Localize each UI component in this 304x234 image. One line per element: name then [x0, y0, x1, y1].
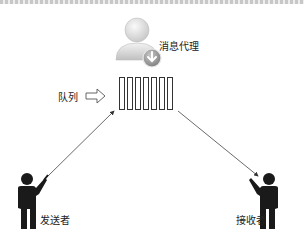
- diagram-canvas: [0, 0, 304, 234]
- broker-label: 消息代理: [159, 38, 199, 53]
- hollow-arrow-right-icon: [86, 89, 105, 103]
- edge-queue-to-receiver: [178, 111, 258, 176]
- sender-label: 发送者: [40, 212, 70, 227]
- edge-sender-to-queue: [46, 111, 114, 178]
- user-download-icon: [116, 18, 161, 67]
- queue-slots-icon: [120, 78, 173, 110]
- queue-label: 队列: [58, 89, 78, 104]
- receiver-label: 接收者: [236, 212, 266, 227]
